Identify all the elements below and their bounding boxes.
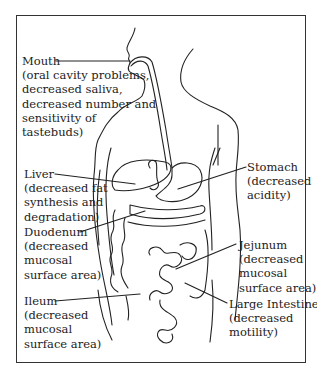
label-mouth-line: tastebuds) bbox=[22, 125, 156, 139]
label-jejunum: Jejunum (decreased mucosal surface area) bbox=[239, 238, 316, 295]
label-duodenum-line: surface area) bbox=[24, 268, 101, 282]
label-large-intestine-name: Large Intestine bbox=[229, 297, 317, 311]
label-liver-line: (decreased fat bbox=[24, 181, 108, 195]
label-mouth-line: sensitivity of bbox=[22, 111, 156, 125]
label-large-intestine-line: (decreased bbox=[229, 311, 317, 325]
liver-shape bbox=[112, 160, 171, 191]
label-liver-line: degradation) bbox=[24, 210, 108, 224]
descending-colon bbox=[190, 230, 208, 298]
intestine-band bbox=[128, 220, 205, 226]
label-ileum: Ileum (decreased mucosal surface area) bbox=[24, 294, 101, 351]
label-stomach: Stomach (decreased acidity) bbox=[247, 160, 311, 203]
small-intestine-loops bbox=[149, 247, 182, 300]
stomach-shape bbox=[156, 163, 202, 202]
label-duodenum: Duodenum (decreased mucosal surface area… bbox=[24, 225, 101, 282]
label-ileum-line: surface area) bbox=[24, 337, 101, 351]
label-liver-name: Liver bbox=[24, 167, 108, 181]
label-stomach-line: acidity) bbox=[247, 188, 311, 202]
label-mouth-line: decreased number and bbox=[22, 97, 156, 111]
label-mouth-name: Mouth bbox=[22, 54, 156, 68]
label-duodenum-line: (decreased bbox=[24, 239, 101, 253]
label-mouth-line: decreased saliva, bbox=[22, 82, 156, 96]
label-large-intestine: Large Intestine (decreased motility) bbox=[229, 297, 317, 340]
label-large-intestine-line: motility) bbox=[229, 325, 317, 339]
label-ileum-name: Ileum bbox=[24, 294, 101, 308]
label-duodenum-name: Duodenum bbox=[24, 225, 101, 239]
label-liver-line: synthesis and bbox=[24, 195, 108, 209]
jejunum-loop bbox=[180, 243, 196, 260]
label-duodenum-line: mucosal bbox=[24, 253, 101, 267]
label-jejunum-line: surface area) bbox=[239, 281, 316, 295]
ascending-colon-inner bbox=[121, 218, 128, 288]
appendix bbox=[126, 296, 129, 320]
label-jejunum-name: Jejunum bbox=[239, 238, 316, 252]
label-jejunum-line: mucosal bbox=[239, 266, 316, 280]
neck-back bbox=[181, 49, 241, 320]
label-stomach-name: Stomach bbox=[247, 160, 311, 174]
label-stomach-line: (decreased bbox=[247, 174, 311, 188]
label-mouth: Mouth (oral cavity problems, decreased s… bbox=[22, 54, 156, 139]
label-jejunum-line: (decreased bbox=[239, 252, 316, 266]
jejunum-leader bbox=[176, 244, 236, 269]
label-ileum-line: mucosal bbox=[24, 322, 101, 336]
label-mouth-line: (oral cavity problems, bbox=[22, 68, 156, 82]
sigmoid-colon bbox=[158, 300, 177, 343]
body-right-edge bbox=[210, 280, 213, 342]
label-liver: Liver (decreased fat synthesis and degra… bbox=[24, 167, 108, 224]
label-ileum-line: (decreased bbox=[24, 308, 101, 322]
